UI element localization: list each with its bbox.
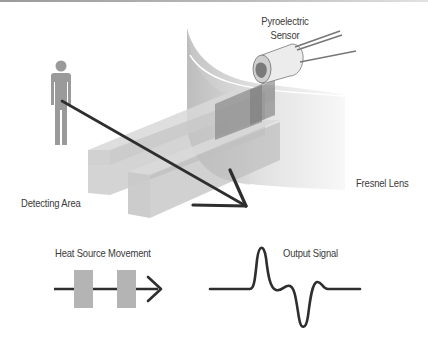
detecting-area-label: Detecting Area (21, 196, 81, 210)
output-signal-label: Output Signal (283, 246, 338, 260)
heat-source-label: Heat Source Movement (55, 246, 151, 260)
lens-label: Fresnel Lens (356, 176, 409, 190)
sensor-label-line1: Pyroelectric (260, 14, 311, 28)
detecting-beams (88, 80, 280, 218)
person-icon (51, 61, 71, 146)
heat-source-figure (54, 270, 161, 308)
pir-diagram (0, 0, 428, 344)
sensor-label-line2: Sensor (260, 28, 311, 42)
